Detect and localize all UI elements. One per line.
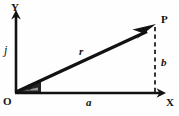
position-vector-r-label: r [79,46,83,57]
position-vector-line [16,32,147,93]
vector-diagram: Y P X O j r a b θ [0,0,179,116]
origin-label: O [3,96,12,107]
unit-vector-j-label: j [4,44,7,56]
angle-theta-label: θ [27,83,32,92]
y-axis-label: Y [11,2,19,13]
x-axis-label: X [166,97,174,108]
component-b-label: b [161,57,167,68]
point-p-label: P [161,14,168,25]
component-a-label: a [86,97,92,108]
